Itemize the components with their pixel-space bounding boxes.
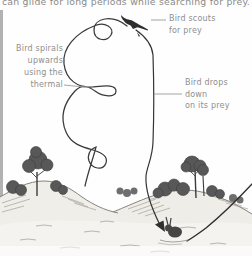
label-bird-scouts: Bird scouts for prey — [169, 13, 216, 36]
soaring-bird-icon — [121, 15, 148, 37]
spiral-thermal-flight-path — [63, 19, 127, 186]
bottom-fade-soft — [0, 246, 252, 256]
bottom-fade — [0, 256, 252, 271]
left-tree-group — [7, 147, 68, 197]
distant-bushes — [117, 188, 138, 198]
landscape-illustration — [0, 147, 252, 271]
leader-lines — [64, 20, 182, 94]
label-bird-drops: Bird drops down on its prey — [185, 77, 252, 112]
thermal-soaring-diagram — [0, 0, 252, 271]
label-bird-spirals: Bird spirals upwards using the thermal — [8, 43, 63, 91]
diagram-page: can glide for long periods while searchi… — [0, 0, 252, 271]
thermal-leader-line — [64, 85, 90, 87]
